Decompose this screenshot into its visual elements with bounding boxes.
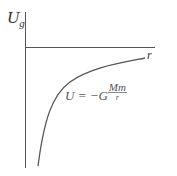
formula-fraction: Mmr (108, 83, 127, 102)
formula-denominator: r (108, 93, 127, 102)
potential-energy-curve (38, 58, 145, 166)
formula-label: U = −GMmr (65, 88, 127, 107)
formula-numerator: Mm (108, 83, 127, 93)
gravitational-potential-energy-diagram: Ug r U = −GMmr (0, 0, 177, 176)
x-axis-label: r (147, 48, 152, 63)
formula-lhs: U = −G (65, 88, 108, 103)
y-axis-label: Ug (7, 8, 25, 29)
